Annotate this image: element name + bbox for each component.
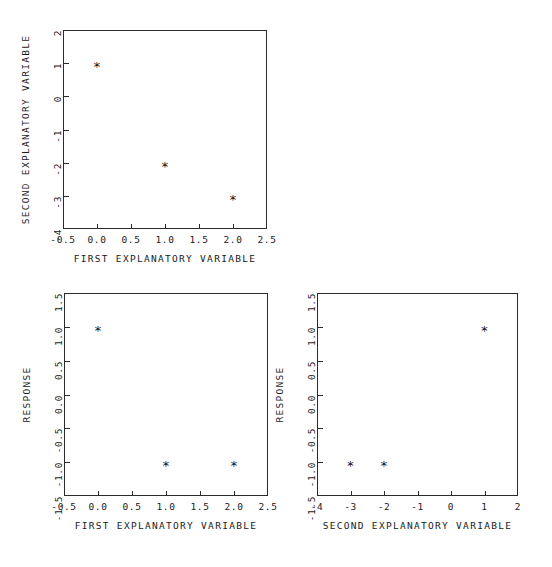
y-tick-label: 0.5	[306, 361, 318, 380]
data-point: *	[481, 323, 489, 336]
y-tick	[318, 462, 323, 463]
chart-panel-bottom-right-scatter: -4-3-2-1012-1.5-1.0-0.50.00.51.01.5SECON…	[0, 0, 552, 567]
y-tick-label: -0.5	[306, 428, 318, 453]
y-tick-label: 1.5	[306, 293, 318, 312]
x-tick-label: 1	[481, 501, 487, 512]
x-tick-label: -3	[344, 501, 357, 512]
y-tick	[318, 428, 323, 429]
x-tick	[485, 491, 486, 496]
x-tick-label: 0	[448, 501, 454, 512]
y-tick	[318, 327, 323, 328]
y-tick-label: -1.0	[306, 462, 318, 487]
x-tick	[451, 491, 452, 496]
x-tick	[418, 491, 419, 496]
x-tick-label: -2	[378, 501, 391, 512]
y-tick	[318, 361, 323, 362]
y-tick-label: 1.0	[306, 327, 318, 346]
x-tick-label: 2	[515, 501, 521, 512]
x-tick	[351, 491, 352, 496]
x-tick	[384, 491, 385, 496]
data-point: *	[347, 459, 355, 472]
y-tick	[318, 395, 323, 396]
y-tick-label: -1.5	[306, 496, 318, 521]
y-tick-label: 0.0	[306, 395, 318, 414]
x-tick-label: -1	[411, 501, 424, 512]
data-point: *	[380, 459, 388, 472]
x-axis-title: SECOND EXPLANATORY VARIABLE	[323, 520, 513, 531]
